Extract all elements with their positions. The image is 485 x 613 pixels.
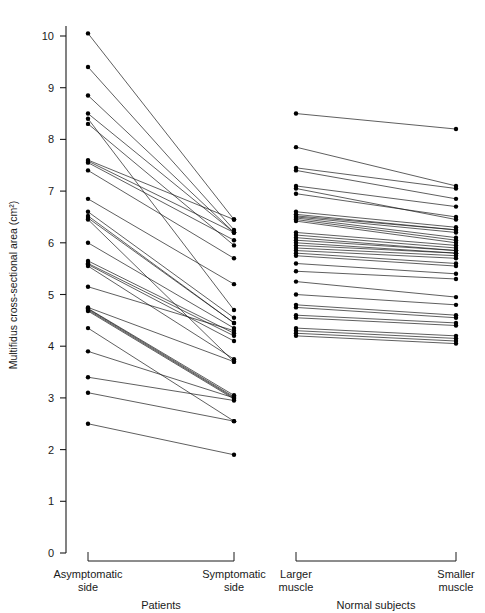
- data-point: [86, 349, 90, 353]
- category-label-symptomatic: Symptomatic: [202, 568, 266, 580]
- y-tick-label: 3: [48, 392, 54, 404]
- data-point: [294, 145, 298, 149]
- data-point: [294, 186, 298, 190]
- data-point: [454, 204, 458, 208]
- category-label-smaller-line2: muscle: [439, 581, 474, 593]
- y-tick-label: 8: [48, 133, 54, 145]
- pair-connector-line: [88, 161, 234, 232]
- pair-connector-line: [88, 124, 234, 245]
- data-point: [232, 217, 236, 221]
- data-point: [454, 230, 458, 234]
- data-point: [86, 285, 90, 289]
- data-point: [454, 215, 458, 219]
- data-point: [294, 261, 298, 265]
- pair-connector-line: [88, 218, 234, 323]
- y-tick-label: 2: [48, 444, 54, 456]
- data-point: [232, 316, 236, 320]
- data-point: [454, 341, 458, 345]
- data-point: [454, 303, 458, 307]
- y-tick-label: 7: [48, 185, 54, 197]
- pair-connector-line: [88, 160, 234, 219]
- group-labels: PatientsNormal subjects: [141, 599, 416, 611]
- data-point: [86, 168, 90, 172]
- data-point: [294, 269, 298, 273]
- pair-connector-line: [296, 189, 456, 220]
- pair-connector-line: [88, 351, 234, 398]
- data-point: [454, 256, 458, 260]
- data-point: [294, 219, 298, 223]
- pair-connector-line: [296, 114, 456, 130]
- pair-connector-line: [88, 310, 234, 398]
- category-label-smaller: Smaller: [437, 568, 475, 580]
- data-point: [294, 254, 298, 258]
- pair-connector-line: [296, 295, 456, 305]
- data-point: [86, 217, 90, 221]
- data-point: [232, 243, 236, 247]
- group-bracket: [296, 552, 456, 561]
- data-point: [294, 316, 298, 320]
- pair-connector-line: [88, 67, 234, 230]
- pair-connector-line: [296, 170, 456, 198]
- data-point: [232, 339, 236, 343]
- pair-connector-line: [88, 308, 234, 395]
- data-point: [294, 292, 298, 296]
- y-axis-ticks: 012345678910: [42, 30, 66, 559]
- data-point: [454, 323, 458, 327]
- pair-connector-line: [88, 163, 234, 241]
- data-point: [86, 375, 90, 379]
- data-point: [232, 360, 236, 364]
- data-point: [86, 264, 90, 268]
- data-point: [232, 398, 236, 402]
- data-point: [454, 272, 458, 276]
- data-point: [454, 295, 458, 299]
- pair-connector-line: [296, 186, 456, 207]
- group-title-normal-subjects: Normal subjects: [337, 599, 416, 611]
- pair-connector-line: [88, 33, 234, 219]
- multifidus-slope-chart: Multifidus cross-sectional area (cm²) 01…: [0, 0, 485, 613]
- y-tick-label: 10: [42, 30, 54, 42]
- data-point: [232, 328, 236, 332]
- group-title-patients: Patients: [141, 599, 181, 611]
- data-point: [86, 391, 90, 395]
- data-point: [86, 326, 90, 330]
- data-point: [232, 238, 236, 242]
- pair-connector-line: [296, 305, 456, 315]
- pair-connector-line: [88, 266, 234, 359]
- pair-connector-line: [296, 147, 456, 186]
- data-point: [232, 256, 236, 260]
- y-tick-label: 0: [48, 547, 54, 559]
- data-point: [232, 419, 236, 423]
- category-labels: AsymptomaticsideSymptomaticsideLargermus…: [53, 568, 475, 593]
- data-point: [454, 316, 458, 320]
- pair-connector-line: [88, 265, 234, 342]
- category-label-larger: Larger: [280, 568, 312, 580]
- data-point: [454, 127, 458, 131]
- pair-connector-line: [296, 282, 456, 298]
- group-patients: [86, 31, 236, 457]
- data-point: [86, 422, 90, 426]
- data-point: [86, 160, 90, 164]
- data-point: [232, 230, 236, 234]
- data-point: [294, 305, 298, 309]
- data-point: [294, 111, 298, 115]
- data-point: [232, 453, 236, 457]
- data-point: [454, 264, 458, 268]
- data-point: [232, 282, 236, 286]
- data-point: [232, 308, 236, 312]
- group-bracket: [88, 552, 234, 561]
- data-point: [232, 321, 236, 325]
- data-point: [86, 31, 90, 35]
- data-point: [294, 168, 298, 172]
- data-point: [86, 111, 90, 115]
- pair-connector-line: [88, 212, 234, 318]
- category-label-larger-line2: muscle: [279, 581, 314, 593]
- data-series-layer: [86, 31, 458, 457]
- data-point: [294, 279, 298, 283]
- data-point: [86, 241, 90, 245]
- data-point: [454, 197, 458, 201]
- data-point: [294, 334, 298, 338]
- pair-connector-line: [88, 220, 234, 362]
- data-point: [86, 210, 90, 214]
- y-tick-label: 6: [48, 237, 54, 249]
- pair-connector-line: [296, 194, 456, 217]
